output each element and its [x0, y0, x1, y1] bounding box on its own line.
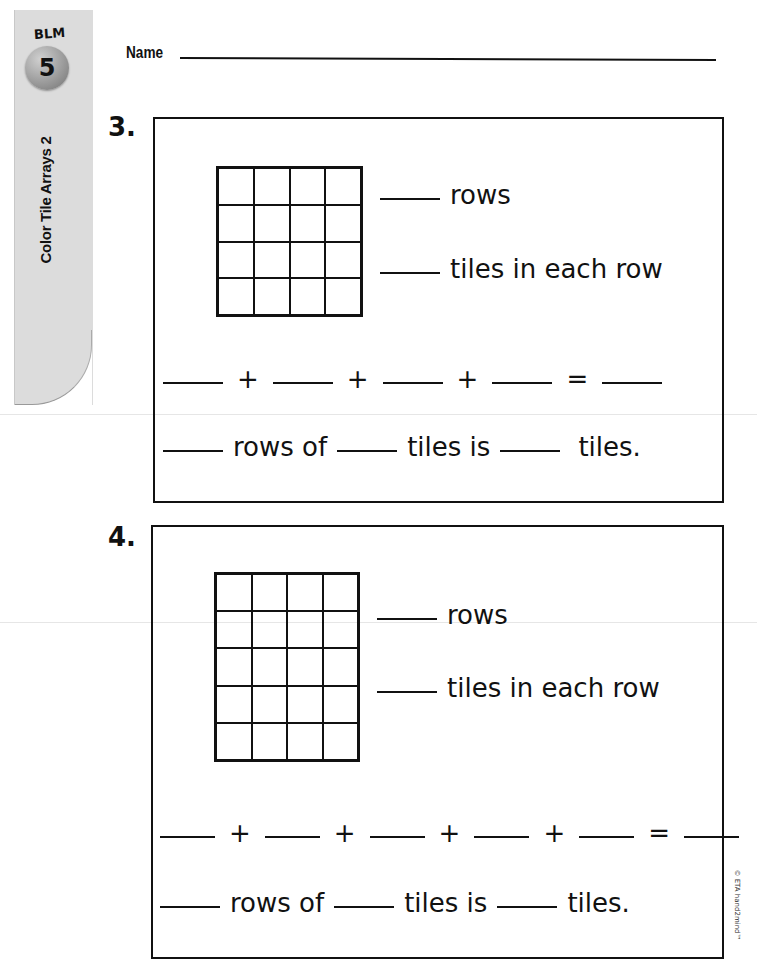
answer-blank[interactable]: [380, 197, 440, 200]
tile-cell: [254, 242, 290, 279]
tile-cell: [254, 168, 290, 205]
problem-number: 3.: [108, 112, 136, 142]
plus-sign: +: [543, 818, 565, 848]
tiles-prompt: tiles in each row: [377, 673, 660, 703]
tile-cell: [218, 205, 254, 242]
tile-cell: [323, 648, 359, 685]
tile-cell: [254, 278, 290, 315]
tile-cell: [216, 574, 252, 611]
plus-sign: +: [439, 818, 461, 848]
answer-blank[interactable]: [337, 449, 397, 452]
tile-cell: [325, 168, 361, 205]
tile-cell: [290, 278, 326, 315]
tiles-label: tiles in each row: [447, 673, 660, 703]
answer-blank[interactable]: [163, 449, 223, 452]
sentence-part: tiles is: [407, 432, 490, 462]
answer-blank[interactable]: [383, 381, 443, 384]
tile-cell: [290, 242, 326, 279]
tile-cell: [216, 648, 252, 685]
tile-cell: [216, 686, 252, 723]
answer-blank[interactable]: [474, 835, 529, 838]
tile-cell: [287, 686, 323, 723]
tile-cell: [287, 611, 323, 648]
plus-sign: +: [347, 364, 369, 394]
tile-cell: [218, 242, 254, 279]
multiplication-sentence: rows of tiles is tiles.: [163, 432, 641, 462]
tiles-label: tiles in each row: [450, 254, 663, 284]
answer-blank[interactable]: [273, 381, 333, 384]
problem-number: 4.: [108, 522, 136, 552]
tile-cell: [216, 611, 252, 648]
sentence-part: rows of: [230, 888, 324, 918]
tile-cell: [254, 205, 290, 242]
tile-cell: [325, 242, 361, 279]
blm-badge: 5: [25, 46, 69, 90]
sentence-part: rows of: [233, 432, 327, 462]
answer-blank[interactable]: [370, 835, 425, 838]
tile-cell: [252, 723, 288, 760]
name-input-line[interactable]: [180, 57, 716, 61]
answer-blank[interactable]: [684, 835, 739, 838]
tile-array: [214, 572, 360, 762]
answer-blank[interactable]: [497, 905, 557, 908]
tile-cell: [323, 611, 359, 648]
tile-cell: [323, 723, 359, 760]
tile-cell: [290, 168, 326, 205]
tile-cell: [252, 574, 288, 611]
answer-blank[interactable]: [492, 381, 552, 384]
answer-blank[interactable]: [160, 905, 220, 908]
tile-cell: [218, 278, 254, 315]
answer-blank[interactable]: [500, 449, 560, 452]
tile-cell: [290, 205, 326, 242]
tab-title: Color Tile Arrays 2: [37, 137, 54, 264]
answer-blank[interactable]: [160, 835, 215, 838]
tile-cell: [287, 723, 323, 760]
addition-sentence: + + + =: [163, 364, 672, 394]
copyright-notice: © ETA hand2mind™: [733, 869, 741, 940]
sentence-part: tiles is: [404, 888, 487, 918]
multiplication-sentence: rows of tiles is tiles.: [160, 888, 630, 918]
sentence-part: tiles.: [578, 432, 640, 462]
rows-prompt: rows: [377, 600, 508, 630]
equals-sign: =: [566, 364, 588, 394]
tile-cell: [252, 648, 288, 685]
rows-label: rows: [450, 180, 511, 210]
tile-cell: [252, 611, 288, 648]
answer-blank[interactable]: [579, 835, 634, 838]
answer-blank[interactable]: [265, 835, 320, 838]
tile-cell: [287, 574, 323, 611]
answer-blank[interactable]: [163, 381, 223, 384]
sentence-part: tiles.: [567, 888, 629, 918]
answer-blank[interactable]: [377, 690, 437, 693]
tile-cell: [218, 168, 254, 205]
blm-number: 5: [39, 54, 56, 82]
tile-cell: [325, 278, 361, 315]
blm-label: BLM: [34, 25, 66, 42]
plus-sign: +: [334, 818, 356, 848]
tile-cell: [252, 686, 288, 723]
answer-blank[interactable]: [334, 905, 394, 908]
tile-cell: [287, 648, 323, 685]
tile-cell: [325, 205, 361, 242]
plus-sign: +: [237, 364, 259, 394]
rows-label: rows: [447, 600, 508, 630]
name-label: Name: [126, 44, 163, 62]
tiles-prompt: tiles in each row: [380, 254, 663, 284]
tile-cell: [216, 723, 252, 760]
answer-blank[interactable]: [380, 271, 440, 274]
tile-cell: [323, 686, 359, 723]
tile-array: [216, 166, 363, 317]
tile-cell: [323, 574, 359, 611]
plus-sign: +: [457, 364, 479, 394]
answer-blank[interactable]: [377, 617, 437, 620]
plus-sign: +: [229, 818, 251, 848]
answer-blank[interactable]: [602, 381, 662, 384]
rows-prompt: rows: [380, 180, 511, 210]
addition-sentence: + + + + =: [160, 818, 749, 848]
equals-sign: =: [648, 818, 670, 848]
